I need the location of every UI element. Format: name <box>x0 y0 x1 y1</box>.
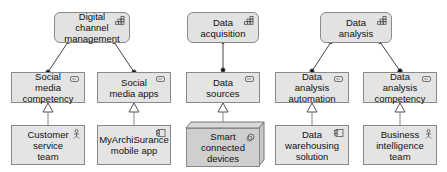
capability-data-acquisition[interactable]: Data acquisition <box>187 12 259 43</box>
device-icon <box>246 133 255 142</box>
application-component-icon <box>156 129 166 137</box>
resource-icon <box>70 76 80 82</box>
resource-icon <box>334 76 344 82</box>
actor-icon <box>425 129 432 139</box>
resource-data-analysis-automation[interactable]: Data analysis automation <box>275 72 349 103</box>
resource-icon <box>156 76 166 82</box>
node-label: MyArchiSurance mobile app <box>89 134 179 156</box>
association-line <box>380 42 400 71</box>
actor-icon <box>73 129 80 139</box>
capability-digital-channel-management[interactable]: Digital channel management <box>54 12 130 43</box>
actor-business-intelligence-team[interactable]: Business intelligence team <box>363 125 437 165</box>
resource-data-sources[interactable]: Data sources <box>186 72 260 103</box>
resource-social-media-apps[interactable]: Social media apps <box>97 72 171 103</box>
application-data-warehousing-solution[interactable]: Data warehousing solution <box>275 125 349 165</box>
association-line <box>114 42 134 72</box>
association-line <box>48 42 68 72</box>
application-myarchisurance-mobile-app[interactable]: MyArchiSurance mobile app <box>97 125 171 165</box>
resource-data-analysis-competency[interactable]: Data analysis competency <box>363 72 437 103</box>
resource-icon <box>245 76 255 82</box>
actor-customer-service-team[interactable]: Customer service team <box>11 125 85 165</box>
capability-icon <box>244 16 254 25</box>
resource-social-media-competency[interactable]: Social media competency <box>11 72 85 103</box>
resource-icon <box>422 76 432 82</box>
association-line <box>312 42 331 71</box>
capability-icon <box>115 16 125 25</box>
device-smart-connected-devices[interactable]: Smart connected devices <box>186 128 260 167</box>
capability-data-analysis[interactable]: Data analysis <box>320 12 392 43</box>
capability-icon <box>377 16 387 25</box>
application-component-icon <box>334 129 344 137</box>
